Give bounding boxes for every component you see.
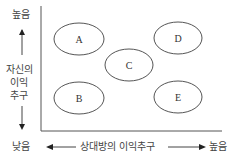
region-e-label: E — [175, 92, 181, 103]
region-e: E — [154, 81, 202, 113]
x-axis-low-label: 낮음 — [12, 141, 30, 153]
x-axis-title: 상대방의 이익추구 — [80, 141, 155, 153]
region-c: C — [105, 49, 153, 81]
right-arrow-icon — [199, 144, 206, 150]
region-b-label: B — [76, 93, 83, 104]
region-d: D — [154, 22, 202, 54]
y-axis-high-label: 높음 — [12, 9, 30, 21]
down-arrow-icon — [19, 124, 25, 130]
region-a: A — [54, 23, 104, 55]
up-arrow-icon — [19, 29, 25, 35]
y-axis-title-line-1: 자신의 — [2, 63, 36, 76]
y-axis-title-line-2: 이익 — [2, 76, 36, 89]
left-arrow-icon — [46, 144, 53, 150]
x-axis-high-label: 높음 — [209, 141, 227, 153]
y-axis-title-line-3: 추구 — [2, 89, 36, 102]
region-d-label: D — [174, 33, 181, 44]
region-c-label: C — [126, 60, 133, 71]
region-a-label: A — [75, 34, 83, 45]
region-b: B — [54, 82, 104, 114]
